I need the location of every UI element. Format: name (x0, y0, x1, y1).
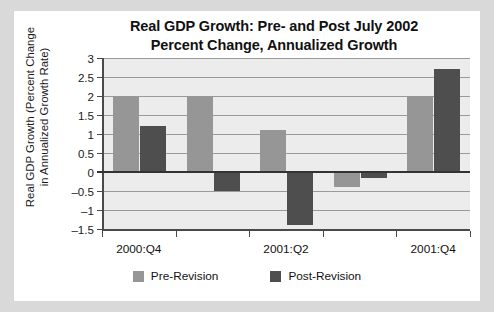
bar-group (104, 58, 178, 229)
bar-group (178, 58, 252, 229)
x-axis-tick (470, 231, 471, 237)
y-axis-tick (97, 171, 104, 173)
y-axis-tick-label: 1.5 (78, 109, 94, 122)
y-axis-tick (97, 58, 104, 59)
bar-group (398, 58, 472, 229)
bar-pre-revision (334, 172, 360, 187)
bar-pre-revision (113, 96, 139, 172)
chart-title: Real GDP Growth: Pre- and Post July 2002… (74, 17, 474, 55)
legend-label: Post-Revision (288, 269, 361, 283)
y-axis-tick (97, 191, 104, 192)
y-axis-tick-label: 1 (88, 128, 94, 141)
plot-area: 32.521.510.50–0.5–1–1.5 (102, 58, 470, 229)
x-axis-tick-label: 2001:Q4 (411, 242, 456, 256)
y-axis-tick (97, 115, 104, 116)
bar-group (325, 58, 399, 229)
zero-line (104, 171, 470, 173)
legend-swatch-post-revision (270, 271, 281, 282)
bar-pre-revision (187, 96, 213, 172)
y-axis-tick (97, 153, 104, 154)
x-axis-tick (249, 231, 250, 237)
y-axis-title-line-2: in Annualized Growth Rate) (37, 17, 51, 217)
legend-item: Pre-Revision (133, 269, 219, 283)
x-axis-tick (176, 231, 177, 237)
y-axis-tick (97, 210, 104, 211)
bar-group (251, 58, 325, 229)
x-axis-tick (396, 231, 397, 237)
x-axis-tick-label: 2000:Q4 (116, 242, 161, 256)
bar-post-revision (434, 69, 460, 172)
chart-title-line-1: Real GDP Growth: Pre- and Post July 2002 (74, 17, 474, 36)
bar-post-revision (287, 172, 313, 225)
chart-title-line-2: Percent Change, Annualized Growth (74, 36, 474, 55)
y-axis-tick-label: 2.5 (78, 71, 94, 84)
y-axis-tick-label: –1.5 (71, 223, 94, 236)
y-axis-tick (97, 77, 104, 78)
bar-pre-revision (407, 96, 433, 172)
legend-item: Post-Revision (270, 269, 361, 283)
chart-card: Real GDP Growth: Pre- and Post July 2002… (14, 11, 480, 301)
bar-post-revision (214, 172, 240, 191)
y-axis-tick-label: 0.5 (78, 147, 94, 160)
legend-label: Pre-Revision (151, 269, 219, 283)
x-axis-tick (323, 231, 324, 237)
bar-post-revision (140, 126, 166, 172)
y-axis-tick-label: 2 (88, 90, 94, 103)
y-axis-tick-label: –0.5 (71, 185, 94, 198)
x-axis-tick (102, 231, 103, 237)
chart-legend: Pre-RevisionPost-Revision (14, 269, 480, 283)
bar-pre-revision (260, 130, 286, 172)
y-axis-tick (97, 96, 104, 97)
y-axis-tick-label: 0 (88, 166, 94, 179)
y-axis-tick-label: 3 (88, 52, 94, 65)
y-axis-title-line-1: Real GDP Growth (Percent Change (23, 17, 37, 217)
y-axis-tick-label: –1 (81, 204, 94, 217)
y-axis-tick (97, 134, 104, 135)
x-axis-line (102, 229, 470, 231)
legend-swatch-pre-revision (133, 271, 144, 282)
x-axis-tick-label: 2001:Q2 (263, 242, 308, 256)
y-axis-title: Real GDP Growth (Percent Change in Annua… (23, 17, 51, 217)
